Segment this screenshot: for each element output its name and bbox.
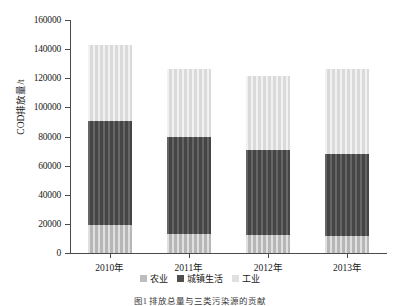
bar-segment-agri — [325, 236, 369, 253]
y-axis-line — [70, 20, 71, 254]
figure-caption: 图1 排放总量与三类污染源的贡献 — [0, 294, 400, 306]
legend-item[interactable]: 城镇生活 — [177, 272, 223, 285]
bar-segment-urban — [246, 150, 290, 235]
bar-segment-agri — [88, 225, 132, 253]
y-axis-tick-mark — [65, 49, 70, 50]
legend-swatch-icon — [140, 275, 147, 282]
x-axis-line — [70, 253, 387, 254]
y-axis-tick-label: 60000 — [0, 160, 70, 172]
bar-stack — [167, 20, 211, 253]
bar-segment-urban — [167, 137, 211, 235]
y-axis-tick-label: 100000 — [0, 101, 70, 113]
bar-stack — [246, 20, 290, 253]
x-axis-tick-mark — [268, 253, 269, 258]
y-axis-tick-label: 120000 — [0, 72, 70, 84]
bar-segment-agri — [167, 234, 211, 253]
y-axis-tick-mark — [65, 78, 70, 79]
bar-segment-industry — [167, 69, 211, 137]
bar-stack — [88, 20, 132, 253]
bar-segment-urban — [325, 154, 369, 236]
bar-segment-industry — [88, 45, 132, 121]
y-axis-tick-label: 160000 — [0, 14, 70, 26]
bar-segment-industry — [246, 76, 290, 150]
y-axis-tick-mark — [65, 166, 70, 167]
legend-label: 城镇生活 — [187, 272, 223, 285]
legend-swatch-icon — [177, 275, 184, 282]
x-axis-tick-mark — [189, 253, 190, 258]
y-axis-tick-mark — [65, 20, 70, 21]
y-axis-tick-label: 0 — [0, 247, 70, 259]
legend-swatch-icon — [232, 275, 239, 282]
legend-item[interactable]: 农业 — [140, 272, 168, 285]
chart-legend: 农业城镇生活工业 — [0, 272, 400, 285]
y-axis-tick-mark — [65, 195, 70, 196]
legend-label: 农业 — [150, 272, 168, 285]
legend-label: 工业 — [242, 272, 260, 285]
legend-item[interactable]: 工业 — [232, 272, 260, 285]
bar-segment-industry — [325, 69, 369, 154]
bar-segment-agri — [246, 235, 290, 253]
y-axis-tick-mark — [65, 224, 70, 225]
y-axis-tick-label: 20000 — [0, 218, 70, 230]
y-axis-tick-mark — [65, 137, 70, 138]
y-axis-tick-label: 80000 — [0, 131, 70, 143]
x-axis-tick-mark — [110, 253, 111, 258]
y-axis-tick-mark — [65, 107, 70, 108]
y-axis-tick-label: 40000 — [0, 189, 70, 201]
y-axis-tick-label: 140000 — [0, 43, 70, 55]
bar-stack — [325, 20, 369, 253]
y-axis-tick-mark — [65, 253, 70, 254]
x-axis-tick-mark — [347, 253, 348, 258]
bar-segment-urban — [88, 121, 132, 226]
